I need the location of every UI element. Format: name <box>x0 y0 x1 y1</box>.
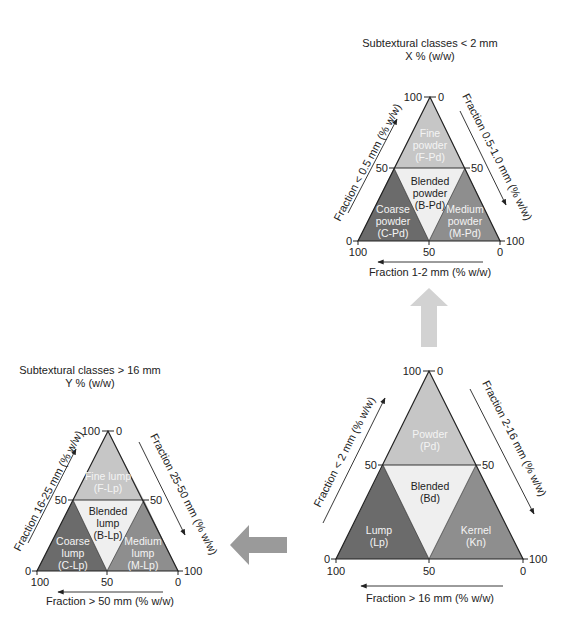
region-label: Coarse <box>376 203 410 215</box>
region-label: powder <box>413 139 448 151</box>
region-label: Blended <box>411 175 450 187</box>
region-label: (F-Lp) <box>94 482 123 494</box>
flow-arrow-left <box>230 525 287 565</box>
tick-label: 0 <box>497 246 503 258</box>
tick-label: 50 <box>150 494 162 506</box>
ternary-main-texture: 100 0 50 50 0 100 100 50 0 Powder (Pd) B… <box>311 365 549 604</box>
tick-label: 0 <box>520 565 526 577</box>
tick-label: 100 <box>82 425 100 437</box>
region-label: Blended <box>89 505 128 517</box>
fine-title: Subtextural classes < 2 mm <box>362 37 497 49</box>
tick-label: 0 <box>437 365 443 377</box>
region-label: (Pd) <box>420 440 440 452</box>
region-label: powder <box>376 215 411 227</box>
axis-label-bottom: Fraction > 16 mm (% w/w) <box>366 592 494 604</box>
tick-label: 50 <box>365 459 377 471</box>
tick-label: 50 <box>101 576 113 588</box>
region-label: (F-Pd) <box>415 151 445 163</box>
tick-label: 0 <box>438 91 444 103</box>
region-label: powder <box>448 215 483 227</box>
tick-label: 50 <box>423 565 435 577</box>
region-label: powder <box>413 187 448 199</box>
region-label: lump <box>97 517 120 529</box>
region-label: lump <box>132 547 155 559</box>
coarse-title: Subtextural classes > 16 mm <box>19 364 161 376</box>
region-label: (M-Lp) <box>128 559 159 571</box>
region-label: (Kn) <box>466 536 486 548</box>
tick-label: 100 <box>403 365 421 377</box>
tick-label: 50 <box>471 162 483 174</box>
region-label: Blended <box>411 480 450 492</box>
tick-label: 0 <box>324 553 330 565</box>
region-label: Coarse <box>56 535 90 547</box>
region-label: (C-Pd) <box>378 227 409 239</box>
tick-label: 100 <box>31 576 49 588</box>
axis-label-bottom: Fraction > 50 mm (% w/w) <box>46 595 174 607</box>
axis-label-left: Fraction < 2 mm (% w/w) <box>311 395 377 509</box>
tick-label: 100 <box>327 565 345 577</box>
region-label: (B-Lp) <box>93 529 122 541</box>
tick-label: 100 <box>529 553 547 565</box>
tick-label: 100 <box>184 565 202 577</box>
tick-label: 50 <box>376 162 388 174</box>
region-label: Fine lump <box>85 470 131 482</box>
tick-label: 0 <box>175 576 181 588</box>
region-label: Kernel <box>461 524 491 536</box>
tick-label: 100 <box>349 246 367 258</box>
region-label: (Bd) <box>420 492 440 504</box>
axis-label-bottom: Fraction 1-2 mm (% w/w) <box>369 266 491 278</box>
tick-label: 100 <box>506 235 524 247</box>
ternary-diagram-figure: Subtextural classes < 2 mm X % (w/w) 100… <box>0 0 572 622</box>
region-label: Medium <box>124 535 162 547</box>
region-label: (C-Lp) <box>58 559 88 571</box>
region-label: (B-Pd) <box>415 199 445 211</box>
tick-label: 50 <box>423 246 435 258</box>
tick-label: 50 <box>55 494 67 506</box>
ternary-fine-powder: Subtextural classes < 2 mm X % (w/w) 100… <box>331 37 535 278</box>
region-label: lump <box>62 547 85 559</box>
tick-label: 50 <box>482 459 494 471</box>
flow-arrow-up <box>410 288 448 347</box>
region-label: Fine <box>420 127 441 139</box>
region-label: (M-Pd) <box>449 227 481 239</box>
tick-label: 100 <box>404 91 422 103</box>
coarse-subtitle: Y % (w/w) <box>65 377 114 389</box>
region-label: Lump <box>366 524 392 536</box>
region-label: (Lp) <box>370 536 389 548</box>
ternary-coarse-lump: Subtextural classes > 16 mm Y % (w/w) 10… <box>11 364 220 607</box>
tick-label: 0 <box>116 425 122 437</box>
fine-subtitle: X % (w/w) <box>405 50 455 62</box>
region-label: Powder <box>412 428 448 440</box>
axis-label-right: Fraction 2-16 mm (% w/w) <box>480 378 549 498</box>
region-label: Medium <box>446 203 484 215</box>
